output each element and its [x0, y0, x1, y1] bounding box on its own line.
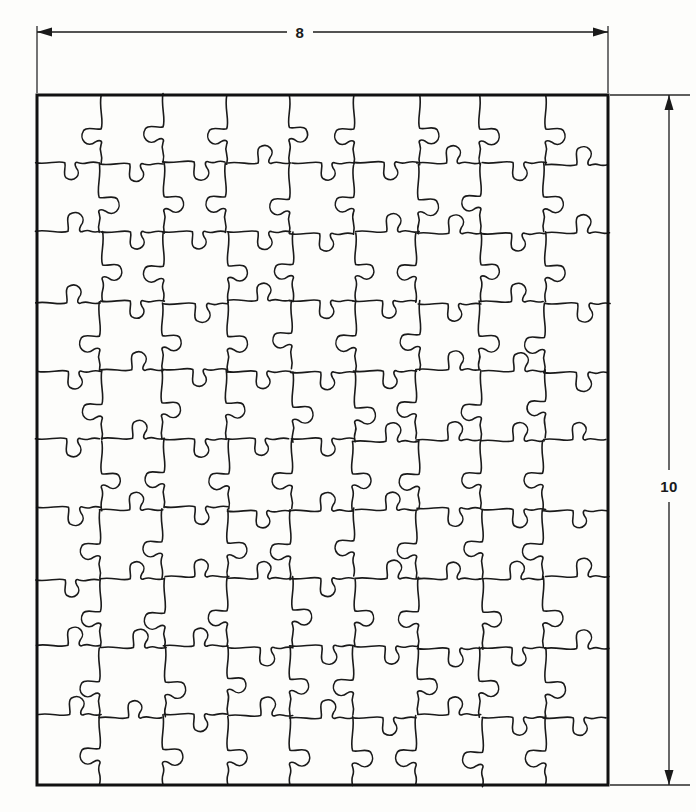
- puzzle-cut-line: [544, 372, 608, 392]
- puzzle-cut-line: [145, 439, 165, 507]
- puzzle-cut-line: [164, 369, 228, 387]
- puzzle-cut-line: [38, 371, 101, 389]
- puzzle-cut-line: [289, 300, 352, 318]
- puzzle-cut-line: [417, 645, 437, 714]
- puzzle-cut-line: [208, 578, 228, 646]
- puzzle-cut-line: [292, 372, 313, 442]
- puzzle-cut-line: [479, 95, 500, 164]
- puzzle-cut-line: [417, 165, 438, 234]
- puzzle-cut-line: [545, 648, 566, 718]
- puzzle-cut-line: [482, 580, 502, 650]
- puzzle-cut-line: [461, 371, 482, 440]
- puzzle-cut-line: [354, 161, 418, 179]
- puzzle-cut-line: [227, 231, 290, 249]
- puzzle-cut-line: [99, 701, 162, 719]
- puzzle-cut-line: [229, 647, 293, 666]
- puzzle-cut-line: [418, 303, 481, 321]
- puzzle-cut-line: [228, 562, 291, 580]
- puzzle-cut-line: [525, 716, 546, 785]
- dimension-label-width: 8: [296, 24, 305, 41]
- puzzle-cut-line: [480, 233, 499, 302]
- puzzle-cut-line: [163, 303, 227, 322]
- puzzle-cut-line: [542, 577, 563, 647]
- puzzle-cut-line: [527, 370, 546, 438]
- puzzle-cut-line: [352, 716, 373, 785]
- puzzle-cut-line: [163, 163, 183, 233]
- puzzle-cut-line: [397, 233, 416, 302]
- puzzle-cut-line: [163, 231, 226, 249]
- puzzle-cut-line: [419, 95, 439, 165]
- dimension-height: 10: [660, 95, 678, 785]
- puzzle-cut-line: [102, 231, 122, 301]
- puzzle-cut-line: [209, 439, 230, 509]
- puzzle-cut-line: [478, 301, 499, 370]
- puzzle-cut-line: [289, 647, 309, 715]
- puzzle-cut-line: [227, 302, 248, 372]
- puzzle-cut-line: [524, 441, 543, 511]
- puzzle-cut-line: [39, 697, 102, 716]
- puzzle-cut-line: [416, 351, 480, 370]
- puzzle-cut-line: [81, 579, 101, 648]
- puzzle-cut-line: [144, 93, 164, 162]
- puzzle-cut-line: [418, 697, 481, 715]
- puzzle-cut-line: [353, 717, 416, 735]
- puzzle-cut-line: [545, 303, 610, 322]
- puzzle-cut-line: [482, 162, 546, 181]
- puzzle-cut-line: [35, 438, 99, 457]
- arrowhead-bottom: [665, 770, 674, 785]
- puzzle-cut-line: [101, 231, 164, 249]
- puzzle-cut-line: [417, 215, 481, 234]
- puzzle-cut-line: [80, 715, 100, 784]
- puzzle-cut-line: [227, 232, 247, 302]
- puzzle-cut-line: [353, 370, 416, 388]
- puzzle-cut-line: [288, 96, 307, 164]
- puzzle-cut-line: [335, 96, 355, 165]
- puzzle-cut-line: [543, 163, 564, 232]
- puzzle-cut-line: [165, 560, 229, 578]
- puzzle-cut-line: [482, 423, 545, 442]
- puzzle-cut-line: [226, 438, 288, 455]
- puzzle-cut-line: [544, 510, 607, 528]
- puzzle-cut-line: [99, 492, 162, 510]
- puzzle-cut-line: [143, 509, 163, 579]
- puzzle-cut-line: [229, 697, 293, 716]
- puzzle-cut-line: [101, 300, 165, 318]
- puzzle-cut-line: [227, 717, 247, 785]
- puzzle-cut-line: [100, 352, 163, 371]
- puzzle-cut-line: [82, 96, 102, 164]
- puzzle-cut-line: [417, 146, 480, 164]
- puzzle-cut-line: [164, 647, 185, 717]
- puzzle-cut-line: [164, 713, 228, 731]
- puzzle-cut-line: [545, 630, 609, 649]
- puzzle-cut-line: [36, 162, 99, 180]
- puzzle-cut-line: [289, 493, 353, 512]
- puzzle-cut-line: [351, 441, 370, 511]
- puzzle-cut-line: [275, 232, 294, 302]
- extension-lines: [37, 26, 690, 785]
- puzzle-cut-line: [161, 303, 181, 372]
- puzzle-cut-line: [144, 232, 165, 300]
- puzzle-cut-line: [292, 577, 312, 646]
- puzzle-cut-line: [289, 716, 310, 785]
- puzzle-cut-line: [545, 95, 565, 164]
- puzzle-cut-line: [289, 578, 353, 597]
- puzzle-cut-line: [480, 561, 543, 579]
- puzzle-drawing-svg: 8 10: [0, 0, 696, 812]
- puzzle-cut-line: [225, 370, 245, 439]
- puzzle-cut-line: [523, 509, 544, 579]
- puzzle-outer-border: [37, 95, 608, 785]
- puzzle-cut-line: [481, 647, 544, 665]
- puzzle-cut-line: [82, 370, 102, 439]
- puzzle-cut-line: [165, 506, 229, 524]
- puzzle-cut-line: [478, 647, 498, 717]
- puzzle-cut-line: [228, 146, 290, 164]
- puzzle-cut-line: [101, 420, 164, 439]
- puzzle-cut-line: [227, 510, 290, 527]
- puzzle-cut-line: [396, 715, 417, 784]
- puzzle-cut-line: [399, 440, 420, 509]
- puzzle-cut-line: [102, 629, 166, 648]
- puzzle-cut-line: [356, 214, 419, 233]
- puzzle-cut-line: [355, 233, 374, 301]
- puzzle-cut-line: [98, 163, 119, 232]
- puzzle-cut-line: [482, 353, 545, 372]
